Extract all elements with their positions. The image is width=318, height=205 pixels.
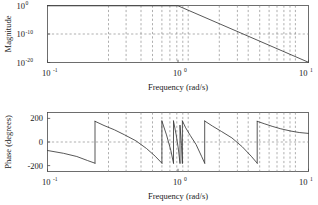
svg-text:10: 10 xyxy=(17,29,26,39)
magnitude-xtick-label-2: 10 1 xyxy=(299,67,313,78)
magnitude-ytick-label-0: 10 0 xyxy=(17,0,29,11)
svg-text:10: 10 xyxy=(42,177,51,187)
svg-text:10: 10 xyxy=(173,177,182,187)
phase-ytick-label-1: 0 xyxy=(39,137,43,147)
svg-text:1: 1 xyxy=(310,67,313,73)
bode-plot-svg: 10 0 10 -10 10 -20 10 -1 10 0 10 1 xyxy=(0,0,318,205)
magnitude-ytick-label-1: 10 -10 xyxy=(17,29,34,40)
svg-text:1: 1 xyxy=(310,176,313,182)
svg-text:10: 10 xyxy=(42,68,51,78)
svg-text:-1: -1 xyxy=(53,176,58,182)
phase-xtick-label-1: 10 0 xyxy=(173,176,187,187)
magnitude-y-axis-title: Magnitude xyxy=(3,15,13,52)
phase-x-axis-title: Frequency (rad/s) xyxy=(148,191,208,201)
svg-text:10: 10 xyxy=(17,1,26,11)
svg-text:10: 10 xyxy=(299,177,308,187)
phase-panel: 200 0 -200 10 -1 10 0 10 1 Frequency (ra… xyxy=(3,113,314,202)
svg-text:10: 10 xyxy=(17,58,26,68)
svg-text:10: 10 xyxy=(173,68,182,78)
magnitude-ytick-label-2: 10 -20 xyxy=(17,57,34,68)
svg-text:-10: -10 xyxy=(26,29,34,35)
svg-text:0: 0 xyxy=(184,67,187,73)
magnitude-xtick-label-0: 10 -1 xyxy=(42,67,58,78)
phase-ytick-label-2: -200 xyxy=(27,161,43,171)
svg-text:0: 0 xyxy=(184,176,187,182)
svg-text:-20: -20 xyxy=(26,57,34,63)
phase-y-axis-title: Phase (degrees) xyxy=(3,115,13,169)
phase-ytick-label-0: 200 xyxy=(30,113,43,123)
svg-text:-1: -1 xyxy=(53,67,58,73)
magnitude-xtick-label-1: 10 0 xyxy=(173,67,187,78)
phase-xtick-label-0: 10 -1 xyxy=(42,176,58,187)
svg-text:0: 0 xyxy=(26,0,29,6)
bode-plot-figure: 10 0 10 -10 10 -20 10 -1 10 0 10 1 xyxy=(0,0,318,205)
magnitude-panel: 10 0 10 -10 10 -20 10 -1 10 0 10 1 xyxy=(3,0,314,92)
phase-xtick-label-2: 10 1 xyxy=(299,176,313,187)
magnitude-x-axis-title: Frequency (rad/s) xyxy=(148,82,208,92)
svg-text:10: 10 xyxy=(299,68,308,78)
